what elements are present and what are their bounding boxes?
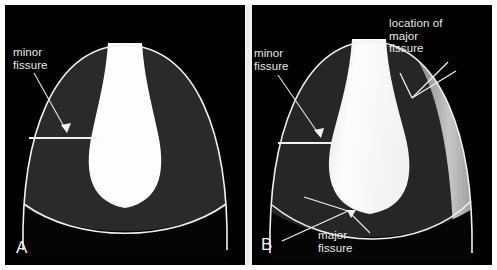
panel-a: minor fissure A bbox=[5, 5, 245, 265]
label-minor-fissure-b: minor fissure bbox=[254, 47, 289, 72]
figure-container: minor fissure A bbox=[0, 0, 497, 270]
panel-divider bbox=[247, 5, 249, 265]
label-major-fissure-location-b: location of major fissure bbox=[389, 17, 443, 55]
frame-right-edge bbox=[492, 0, 497, 270]
panel-letter-a: A bbox=[16, 238, 27, 258]
label-minor-fissure-a: minor fissure bbox=[13, 46, 48, 71]
label-major-fissure-b: major fissure bbox=[318, 229, 353, 254]
panel-b-illustration bbox=[252, 5, 492, 265]
panel-letter-b: B bbox=[261, 235, 272, 255]
panel-b: minor fissure location of major fissure … bbox=[252, 5, 492, 265]
frame-bottom-edge bbox=[0, 265, 497, 270]
panel-a-illustration bbox=[5, 5, 245, 265]
